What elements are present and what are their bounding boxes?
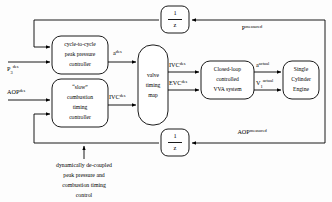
delay-bottom-numerator: 1 bbox=[173, 132, 176, 139]
label-p-measured-sup: measured bbox=[245, 24, 263, 29]
label-evc-des-map-out-base: EVC bbox=[169, 79, 181, 86]
caption-line2: peak pressure and bbox=[63, 172, 105, 178]
label-evc-des-map-out: EVCdes bbox=[169, 79, 188, 87]
label-aop-measured-base: AOP bbox=[237, 128, 250, 135]
vva-system-line2: controlled bbox=[216, 76, 239, 82]
valve-timing-map-line1: valve bbox=[147, 72, 160, 78]
valve-timing-map-line3: map bbox=[148, 92, 158, 98]
engine-line3: Engine bbox=[293, 86, 309, 92]
combustion-timing-controller-line1: “slow” bbox=[72, 84, 88, 90]
label-p-measured: Pmeasured bbox=[242, 24, 263, 32]
label-ivc-des-map-out: IVCdes bbox=[169, 61, 186, 69]
delay-bottom-denominator: z bbox=[174, 144, 177, 151]
diagram-canvas: cycle-to-cycle peak pressure controller … bbox=[0, 0, 332, 202]
caption-line4: control bbox=[76, 192, 93, 198]
vva-system-line1: Closed-loop bbox=[214, 66, 242, 72]
label-a-des: ades bbox=[113, 49, 122, 57]
peak-pressure-controller-line1: cycle-to-cycle bbox=[64, 41, 96, 47]
caption-line3: combustion timing bbox=[62, 182, 106, 188]
label-ivc-des-map-in-base: IVC bbox=[109, 93, 120, 100]
label-ivc-des-map-out-sup: des bbox=[180, 61, 186, 66]
label-a-actual: aactual bbox=[256, 61, 270, 69]
engine-line1: Single bbox=[294, 66, 309, 72]
label-aop-des-sup: des bbox=[19, 88, 25, 93]
combustion-timing-controller-line3: timing bbox=[73, 104, 88, 110]
valve-timing-map-line2: timing bbox=[146, 82, 161, 88]
combustion-timing-controller-line2: combustion bbox=[67, 94, 93, 100]
label-aop-des: AOPdes bbox=[7, 88, 26, 96]
control-block-diagram: cycle-to-cycle peak pressure controller … bbox=[0, 0, 332, 202]
label-a-actual-sup: actual bbox=[259, 61, 270, 66]
peak-pressure-controller-line3: controller bbox=[69, 61, 91, 67]
combustion-timing-controller-line4: controller bbox=[69, 114, 91, 120]
label-ivc-des-map-out-base: IVC bbox=[169, 61, 180, 68]
caption-line1: dynamically de-coupled bbox=[56, 162, 112, 168]
label-aop-measured: AOPmeasured bbox=[237, 128, 267, 136]
label-aop-measured-sup: measured bbox=[250, 128, 268, 133]
delay-top-numerator: 1 bbox=[173, 9, 176, 16]
vva-system-line3: VVA system bbox=[213, 86, 242, 92]
label-ivc-des-map-in-sup: des bbox=[120, 93, 126, 98]
label-ivc-des-map-in: IVCdes bbox=[109, 93, 126, 101]
label-aop-des-base: AOP bbox=[7, 88, 20, 95]
label-p3-des-sub: 3 bbox=[10, 70, 13, 75]
peak-pressure-controller-line2: peak pressure bbox=[65, 51, 96, 57]
label-evc-des-map-out-sup: des bbox=[181, 79, 187, 84]
label-v1-actual-sup: actual bbox=[263, 78, 274, 83]
label-p3-des: P3des bbox=[7, 64, 19, 75]
engine-line2: Cylinder bbox=[291, 76, 311, 82]
label-p3-des-sup: des bbox=[13, 64, 19, 69]
delay-top-denominator: z bbox=[174, 21, 177, 28]
label-v1-actual: V1actual bbox=[256, 78, 274, 89]
label-a-des-sup: des bbox=[116, 49, 122, 54]
label-v1-actual-sub: 1 bbox=[260, 84, 262, 89]
